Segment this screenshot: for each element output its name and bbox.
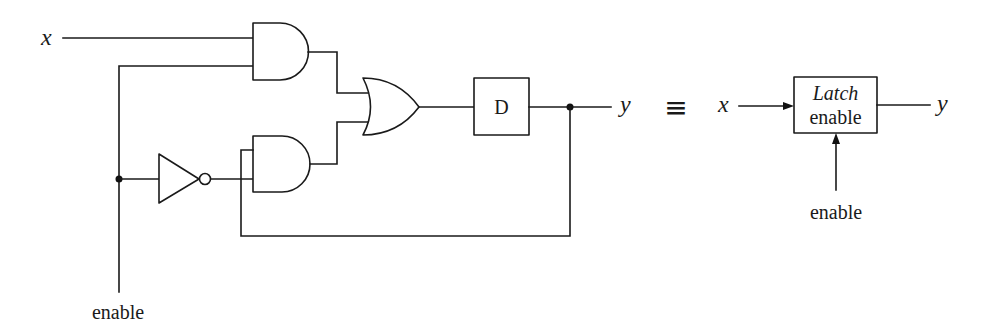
output-y-label: y (618, 91, 631, 117)
equivalence-symbol: ≡ (664, 91, 687, 124)
latch-diagram: x D y enable ≡ x Latch enable y enable (0, 0, 994, 335)
latch-enable-label: enable (810, 201, 862, 223)
enable-label: enable (92, 301, 144, 323)
not-gate (159, 154, 199, 203)
arrowhead-enable-icon (832, 133, 840, 144)
wire-and1-to-or (308, 52, 368, 93)
latch-box-subtitle: enable (809, 106, 861, 128)
arrowhead-x-icon (783, 102, 794, 110)
and-gate-2 (253, 136, 310, 192)
latch-input-x-label: x (717, 91, 729, 117)
d-box-label: D (494, 96, 508, 118)
not-gate-bubble (200, 174, 211, 185)
latch-output-y-label: y (935, 90, 948, 116)
wire-and2-to-or (310, 122, 368, 164)
and-gate-1 (253, 23, 309, 80)
input-x-label: x (40, 24, 52, 50)
latch-box-title: Latch (812, 82, 859, 104)
or-gate (363, 78, 419, 135)
